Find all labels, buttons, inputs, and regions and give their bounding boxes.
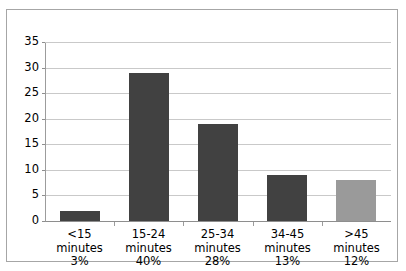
y-axis-tick-25 [42, 93, 45, 94]
y-axis-tick-5 [42, 195, 45, 196]
y-axis-label-20: 20 [9, 113, 39, 124]
bar-1 [60, 211, 100, 221]
x-axis-label-line: 34-45 [253, 228, 322, 242]
bar-2 [129, 73, 169, 221]
x-axis-label-percent: 12% [322, 255, 391, 269]
x-axis-tick-2 [183, 222, 184, 226]
x-axis-label-3: 25-34minutes28% [183, 228, 252, 269]
y-axis-label-15: 15 [9, 138, 39, 149]
y-axis-label-5: 5 [9, 189, 39, 200]
y-axis-tick-20 [42, 119, 45, 120]
x-axis-label-line: 15-24 [114, 228, 183, 242]
x-axis-tick-4 [322, 222, 323, 226]
y-axis-label-0: 0 [9, 215, 39, 226]
y-axis-tick-35 [42, 42, 45, 43]
y-axis-label-10: 10 [9, 164, 39, 175]
x-axis-tick-1 [114, 222, 115, 226]
x-axis-label-line: <15 [45, 228, 114, 242]
x-axis-label-percent: 13% [253, 255, 322, 269]
y-axis-tick-0 [42, 221, 45, 222]
x-axis-label-line: >45 [322, 228, 391, 242]
x-axis-label-line: minutes [114, 242, 183, 256]
x-axis-label-line: minutes [253, 242, 322, 256]
x-axis-label-line: minutes [183, 242, 252, 256]
chart-frame: 05101520253035 <15minutes3%15-24minutes4… [6, 9, 398, 262]
bar-3 [198, 124, 238, 221]
x-axis-label-percent: 28% [183, 255, 252, 269]
x-axis-label-line: minutes [45, 242, 114, 256]
x-axis-label-1: <15minutes3% [45, 228, 114, 269]
x-axis-label-percent: 3% [45, 255, 114, 269]
y-axis-tick-10 [42, 170, 45, 171]
y-axis-label-25: 25 [9, 87, 39, 98]
x-axis-label-5: >45minutes12% [322, 228, 391, 269]
x-axis-label-line: minutes [322, 242, 391, 256]
y-axis-label-30: 30 [9, 62, 39, 73]
x-axis-tick-3 [253, 222, 254, 226]
chart-title [8, 0, 308, 7]
bars-group [45, 43, 391, 222]
x-axis-label-line: 25-34 [183, 228, 252, 242]
bar-4 [267, 175, 307, 221]
x-axis-label-4: 34-45minutes13% [253, 228, 322, 269]
y-axis-tick-30 [42, 68, 45, 69]
y-axis-tick-15 [42, 144, 45, 145]
bar-chart: 05101520253035 <15minutes3%15-24minutes4… [0, 0, 406, 271]
x-axis-label-percent: 40% [114, 255, 183, 269]
plot-area [45, 43, 391, 222]
x-axis-label-2: 15-24minutes40% [114, 228, 183, 269]
y-axis-label-35: 35 [9, 36, 39, 47]
bar-5 [336, 180, 376, 221]
